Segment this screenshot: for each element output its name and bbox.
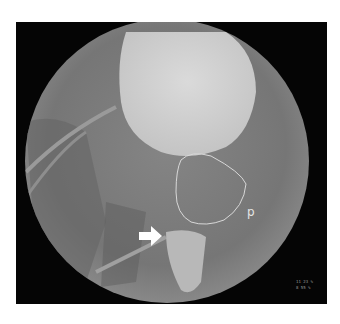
prostate-label: p	[247, 205, 255, 219]
image-frame: p 11 23 % 8 55 %	[16, 22, 327, 304]
annotation-text: 11 23 % 8 55 %	[296, 279, 313, 291]
fluoroscopy-field	[16, 22, 327, 304]
annotation-line-2: 8 55 %	[296, 285, 313, 291]
